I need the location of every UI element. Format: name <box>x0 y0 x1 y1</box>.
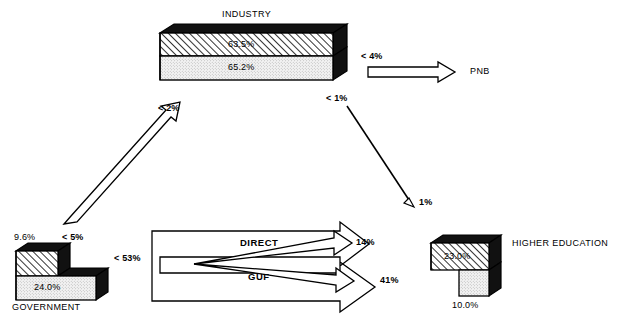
diagram-vector-layer <box>0 0 623 324</box>
flow-label-industry-to-higher-education: 1% <box>419 198 432 207</box>
flow-label-government-to-industry: < 2% <box>158 104 180 113</box>
flow-label-industry-tail: < 1% <box>326 94 348 103</box>
flow-arrow-government-to-industry <box>64 102 180 224</box>
flow-label-direct: DIRECT <box>240 238 278 248</box>
government-block <box>16 243 108 300</box>
higher-education-block <box>431 235 501 296</box>
higher-education-title: HIGHER EDUCATION <box>512 239 608 248</box>
industry-bar-value-bottom: 65.2% <box>228 63 255 72</box>
industry-title: INDUSTRY <box>222 10 271 19</box>
flow-value-guf: 41% <box>380 276 399 285</box>
flow-label-government-tail: < 5% <box>62 233 84 242</box>
higher-education-bar-value-top: 23.0% <box>444 252 471 261</box>
higher-education-bar-value-bottom: 10.0% <box>452 301 479 310</box>
flow-label-guf: GUF <box>248 272 270 282</box>
flow-label-industry-to-pnb: < 4% <box>361 52 383 61</box>
industry-bar-value-top: 63.5% <box>228 40 255 49</box>
pnb-title: PNB <box>470 67 490 76</box>
flow-arrow-industry-to-pnb <box>368 62 455 82</box>
diagram-canvas: INDUSTRY 63.5% 65.2% PNB < 4% GOVERNMENT… <box>0 0 623 324</box>
government-bar-value-top: 9.6% <box>14 233 35 242</box>
flow-label-government-to-higher-education: < 53% <box>114 254 141 263</box>
government-title: GOVERNMENT <box>12 303 81 312</box>
flow-arrow-industry-to-higher-education <box>347 106 414 207</box>
flow-value-direct: 14% <box>356 238 375 247</box>
flow-arrow-government-to-higher-education <box>152 222 375 312</box>
government-bar-value-bottom: 24.0% <box>34 283 61 292</box>
